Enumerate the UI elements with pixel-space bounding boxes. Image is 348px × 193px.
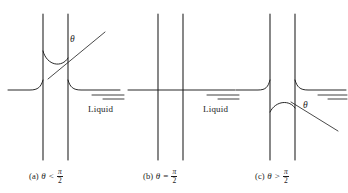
panel-a-caption-relation: < — [48, 172, 54, 181]
panel-c-caption-theta: θ — [267, 172, 272, 181]
panel-c-caption-fraction-denominator: 2 — [283, 177, 289, 185]
panel-a-outer-surface-right — [68, 80, 120, 90]
panel-a-caption-tag: (a) — [29, 172, 39, 181]
panel-b-caption-theta: θ — [156, 172, 161, 181]
panel-c-tangent-line — [291, 102, 338, 131]
figure-capillary-contact-angle: θ θ Liquid Liquid (a) θ < π 2 (b) θ = π … — [0, 0, 348, 193]
panel-c-caption-tag: (c) — [255, 172, 265, 181]
panel-a-meniscus — [43, 51, 68, 64]
panel-c-caption-fraction: π 2 — [283, 168, 289, 185]
panel-b-caption-relation: = — [163, 172, 169, 181]
panel-b-caption-fraction-denominator: 2 — [171, 177, 177, 185]
panel-a-drawing — [8, 14, 124, 160]
panel-c-outer-surface-right — [295, 80, 346, 90]
panel-c-drawing — [236, 14, 347, 160]
panel-a-caption-fraction-denominator: 2 — [57, 177, 63, 185]
panel-c-caption-relation: > — [274, 172, 280, 181]
panel-a-theta-mark: θ — [70, 34, 75, 44]
panel-c-outer-surface-left — [236, 80, 270, 90]
panel-c-theta-mark: θ — [303, 100, 308, 110]
panel-a-outer-surface-left — [8, 80, 43, 90]
panel-a-tangent-line — [48, 32, 105, 79]
panel-b-caption-fraction: π 2 — [171, 168, 177, 185]
panel-b-drawing — [128, 14, 239, 160]
panel-b-caption-tag: (b) — [143, 172, 153, 181]
figure-drawing-canvas — [0, 0, 348, 193]
panel-a-caption-theta: θ — [41, 172, 46, 181]
panel-c-meniscus — [270, 102, 295, 112]
panel-a-caption-fraction: π 2 — [57, 168, 63, 185]
panel-a-liquid-label: Liquid — [88, 104, 113, 114]
panel-b-liquid-label: Liquid — [203, 104, 228, 114]
panel-b-caption: (b) θ = π 2 — [143, 168, 177, 185]
panel-c-caption: (c) θ > π 2 — [255, 168, 289, 185]
panel-a-caption: (a) θ < π 2 — [29, 168, 63, 185]
